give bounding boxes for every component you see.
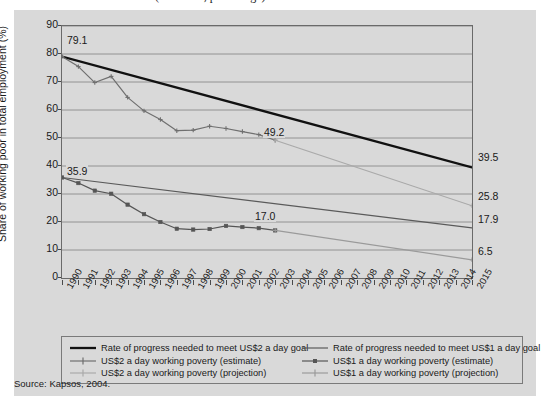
x-tick-mark (226, 280, 227, 285)
series-line (275, 140, 472, 206)
x-tick-mark (472, 280, 473, 285)
series-marker (241, 225, 244, 228)
series-line (62, 57, 275, 141)
chart-title-cropped: (estimates, percentage) (0, 0, 548, 10)
legend-item[interactable]: US$1 a day working poverty (estimate) (302, 355, 527, 368)
x-tick-mark (128, 280, 129, 285)
legend-label: US$2 a day working poverty (estimate) (101, 356, 261, 366)
series-line (275, 230, 472, 259)
x-tick-mark (259, 280, 260, 285)
chart-title-text: (estimates, percentage) (155, 0, 266, 4)
legend-column-left: Rate of progress needed to meet US$2 a d… (70, 342, 295, 380)
legend-label: Rate of progress needed to meet US$2 a d… (101, 343, 308, 353)
series-marker (224, 126, 228, 130)
legend-item[interactable]: Rate of progress needed to meet US$1 a d… (302, 342, 527, 355)
series-marker (208, 227, 211, 230)
legend-key-icon (302, 367, 328, 379)
legend-column-right: Rate of progress needed to meet US$1 a d… (302, 342, 527, 380)
x-tick-mark (308, 280, 309, 285)
series-line (62, 57, 472, 168)
series-marker (110, 192, 113, 195)
series-marker (207, 124, 211, 128)
legend-label: US$2 a day working poverty (projection) (101, 368, 266, 378)
y-axis-tick-labels: 9080706050403020100 (36, 25, 58, 279)
legend-label: Rate of progress needed to meet US$1 a d… (333, 343, 540, 353)
legend-key-icon (302, 355, 328, 367)
x-tick-mark (177, 280, 178, 285)
legend-item[interactable]: Rate of progress needed to meet US$2 a d… (70, 342, 295, 355)
y-tick-label: 30 (38, 186, 58, 198)
series-marker (142, 212, 145, 215)
series-marker (224, 224, 227, 227)
x-tick-mark (341, 280, 342, 285)
annotation-end-goal-us1: 17.9 (478, 213, 498, 225)
chart-page: (estimates, percentage) Share of working… (0, 0, 548, 414)
series-marker (159, 220, 162, 223)
series-marker (77, 181, 80, 184)
y-tick-label: 20 (38, 214, 58, 226)
series-marker (191, 128, 195, 132)
series-marker (240, 129, 244, 133)
x-tick-mark (374, 280, 375, 285)
y-tick-label: 10 (38, 242, 58, 254)
source-note: Source: Kapsos, 2004. (14, 378, 110, 389)
y-tick-label: 0 (38, 270, 58, 282)
series-marker (257, 226, 260, 229)
x-tick-mark (144, 280, 145, 285)
legend-key-icon (302, 342, 328, 354)
y-tick-label: 60 (38, 102, 58, 114)
x-tick-label: 2015 (474, 267, 494, 291)
legend-key-icon (70, 342, 96, 354)
series-marker (175, 227, 178, 230)
annotation-end-proj-us1: 6.5 (478, 245, 493, 257)
x-tick-mark (456, 280, 457, 285)
annotation-start-us2: 79.1 (66, 34, 88, 46)
annotation-start-us1: 35.9 (66, 165, 88, 177)
x-tick-mark (62, 280, 63, 285)
series-marker (470, 258, 472, 262)
y-axis-title: Share of working poor in total employmen… (0, 4, 8, 264)
x-tick-mark (95, 280, 96, 285)
series-marker (93, 189, 96, 192)
x-tick-mark (210, 280, 211, 285)
series-marker (192, 228, 195, 231)
series-marker (273, 138, 277, 142)
annotation-mid-us2: 49.2 (263, 126, 285, 138)
x-tick-mark (423, 280, 424, 285)
annotation-end-goal-us2: 39.5 (478, 151, 498, 163)
annotation-end-proj-us2: 25.8 (478, 190, 498, 202)
x-tick-mark (292, 280, 293, 285)
legend-key-icon (70, 355, 96, 367)
figure-panel: Share of working poor in total employmen… (14, 10, 536, 396)
chart-legend: Rate of progress needed to meet US$2 a d… (61, 336, 523, 384)
y-tick-label: 40 (38, 158, 58, 170)
y-tick-label: 80 (38, 46, 58, 58)
series-marker (62, 176, 64, 179)
plot-area (61, 25, 473, 279)
legend-label: US$1 a day working poverty (estimate) (333, 356, 493, 366)
legend-item[interactable]: US$1 a day working poverty (projection) (302, 367, 527, 380)
y-tick-label: 90 (38, 18, 58, 30)
annotation-mid-us1: 17.0 (254, 210, 276, 222)
y-tick-label: 70 (38, 74, 58, 86)
series-marker (470, 204, 472, 208)
series-line (62, 177, 275, 230)
y-tick-label: 50 (38, 130, 58, 142)
series-marker (126, 203, 129, 206)
legend-item[interactable]: US$2 a day working poverty (estimate) (70, 355, 295, 368)
x-tick-mark (390, 280, 391, 285)
series-marker (257, 132, 261, 136)
legend-label: US$1 a day working poverty (projection) (333, 368, 498, 378)
chart-canvas (62, 26, 472, 278)
